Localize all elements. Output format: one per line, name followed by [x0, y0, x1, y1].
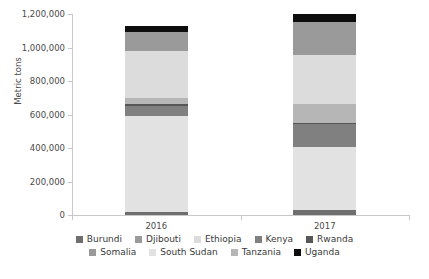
- bar-segment-tanzania[interactable]: [125, 98, 188, 104]
- legend-row: SomaliaSouth SudanTanzaniaUganda: [89, 247, 339, 257]
- legend-item-south-sudan[interactable]: South Sudan: [149, 247, 217, 257]
- y-tick-label: 600,000: [30, 110, 65, 120]
- bar-segment-south-sudan[interactable]: [293, 147, 356, 211]
- chart-legend: BurundiDjiboutiEthiopiaKenyaRwanda Somal…: [0, 234, 429, 257]
- bar-segment-rwanda[interactable]: [125, 104, 188, 106]
- y-tick-mark: [68, 115, 72, 116]
- x-tick-separator: [409, 215, 410, 220]
- legend-item-rwanda[interactable]: Rwanda: [306, 234, 353, 244]
- legend-swatch-icon: [135, 236, 142, 243]
- y-tick-label: 0: [60, 210, 65, 220]
- y-tick-mark: [68, 81, 72, 82]
- y-tick-label: 200,000: [30, 177, 65, 187]
- legend-label: Uganda: [305, 247, 340, 257]
- legend-swatch-icon: [306, 236, 313, 243]
- bar-segment-uganda[interactable]: [125, 26, 188, 33]
- legend-swatch-icon: [294, 249, 301, 256]
- legend-item-uganda[interactable]: Uganda: [294, 247, 340, 257]
- bar-segment-ethiopia[interactable]: [125, 51, 188, 99]
- y-tick-label: 1,200,000: [22, 9, 65, 19]
- stacked-bar-2017[interactable]: [293, 14, 356, 215]
- legend-swatch-icon: [231, 249, 238, 256]
- legend-item-somalia[interactable]: Somalia: [89, 247, 136, 257]
- legend-label: Ethiopia: [205, 234, 242, 244]
- legend-swatch-icon: [89, 249, 96, 256]
- bar-segment-somalia[interactable]: [125, 32, 188, 50]
- legend-item-djibouti[interactable]: Djibouti: [135, 234, 181, 244]
- legend-label: Rwanda: [317, 234, 353, 244]
- x-tick-separator: [72, 215, 73, 220]
- legend-item-kenya[interactable]: Kenya: [255, 234, 294, 244]
- legend-label: Djibouti: [146, 234, 181, 244]
- bar-segment-south-sudan[interactable]: [125, 116, 188, 211]
- legend-swatch-icon: [255, 236, 262, 243]
- legend-label: Kenya: [266, 234, 294, 244]
- legend-label: Burundi: [87, 234, 122, 244]
- y-axis-line: [72, 14, 73, 215]
- y-tick-mark: [68, 148, 72, 149]
- bar-segment-kenya[interactable]: [293, 124, 356, 146]
- legend-swatch-icon: [76, 236, 83, 243]
- bar-segment-somalia[interactable]: [293, 22, 356, 56]
- legend-label: South Sudan: [160, 247, 217, 257]
- y-tick-label: 400,000: [30, 143, 65, 153]
- legend-label: Somalia: [100, 247, 136, 257]
- y-tick-mark: [68, 48, 72, 49]
- y-tick-mark: [68, 14, 72, 15]
- y-tick-label: 800,000: [30, 76, 65, 86]
- legend-label: Tanzania: [242, 247, 281, 257]
- legend-swatch-icon: [149, 249, 156, 256]
- y-tick-mark: [68, 182, 72, 183]
- legend-swatch-icon: [194, 236, 201, 243]
- x-tick-separator: [241, 215, 242, 220]
- bar-segment-burundi[interactable]: [293, 210, 356, 215]
- bar-segment-rwanda[interactable]: [293, 123, 356, 125]
- legend-item-tanzania[interactable]: Tanzania: [231, 247, 281, 257]
- legend-item-ethiopia[interactable]: Ethiopia: [194, 234, 242, 244]
- legend-row: BurundiDjiboutiEthiopiaKenyaRwanda: [76, 234, 353, 244]
- bar-segment-kenya[interactable]: [125, 106, 188, 116]
- legend-item-burundi[interactable]: Burundi: [76, 234, 122, 244]
- y-tick-label: 1,000,000: [22, 43, 65, 53]
- bar-segment-ethiopia[interactable]: [293, 55, 356, 104]
- bar-segment-burundi[interactable]: [125, 212, 188, 215]
- plot-area: 0200,000400,000600,000800,0001,000,0001,…: [72, 14, 409, 215]
- bar-segment-uganda[interactable]: [293, 14, 356, 22]
- x-tick-label: 2016: [145, 221, 167, 231]
- bar-segment-tanzania[interactable]: [293, 104, 356, 123]
- x-tick-label: 2017: [314, 221, 336, 231]
- stacked-bar-2016[interactable]: [125, 14, 188, 215]
- stacked-bar-chart: Metric tons 0200,000400,000600,000800,00…: [0, 0, 429, 279]
